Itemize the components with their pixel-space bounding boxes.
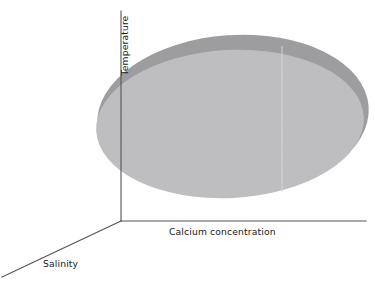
diagram-canvas bbox=[0, 0, 375, 283]
axis-label-temperature: Temperature bbox=[119, 16, 130, 76]
axis-label-calcium: Calcium concentration bbox=[169, 226, 276, 237]
niche-envelope-diagram: Temperature Calcium concentration Salini… bbox=[0, 0, 375, 283]
axis-label-salinity: Salinity bbox=[43, 258, 78, 269]
